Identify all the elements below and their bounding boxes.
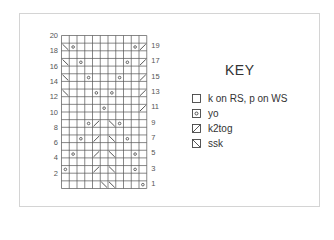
chart-grid [61,35,147,189]
row-number-right: 7 [151,134,165,142]
ssk-icon [101,182,107,188]
key-item-k2tog: k2tog [192,122,232,134]
row-number-right: 1 [151,180,165,188]
row-number-left: 4 [44,154,58,162]
yo-icon [72,153,75,156]
row-number-left: 12 [44,93,58,101]
row-number-right: 19 [151,42,165,50]
row-number-left: 20 [44,32,58,40]
yo-icon [134,46,137,49]
yo-icon [87,122,90,125]
yo-icon [192,109,201,118]
ssk-icon [63,90,69,96]
k2tog-icon [94,121,100,127]
yo-icon [118,76,121,79]
ssk-icon [109,136,115,142]
key-item-ssk: ssk [192,137,223,149]
row-number-right: 13 [151,88,165,96]
key-title: KEY [225,62,255,78]
yo-icon [95,92,98,95]
row-number-left: 8 [44,124,58,132]
key-label: k2tog [208,123,232,134]
key-label: yo [208,108,219,119]
ssk-icon [63,44,69,50]
yo-icon [134,168,137,171]
k2tog-icon [192,124,201,133]
k2tog-icon [140,59,146,65]
yo-icon [80,137,83,140]
ssk-icon [109,151,115,157]
row-number-left: 2 [44,170,58,178]
k2tog-icon [140,90,146,96]
ssk-icon [63,59,69,65]
key-label: ssk [208,138,223,149]
row-number-left: 6 [44,139,58,147]
ssk-icon [109,167,115,173]
row-number-left: 16 [44,63,58,71]
row-number-right: 3 [151,165,165,173]
yo-icon [80,61,83,64]
key-label: k on RS, p on WS [208,93,287,104]
row-number-right: 11 [151,103,165,111]
ssk-icon [63,75,69,81]
k2tog-icon [94,167,100,173]
yo-icon [126,137,129,140]
row-number-left: 14 [44,78,58,86]
yo-icon [72,46,75,49]
key-item-yo: yo [192,107,219,119]
ssk-icon [192,139,201,148]
k2tog-icon [140,44,146,50]
yo-icon [134,153,137,156]
row-number-left: 10 [44,109,58,117]
yo-icon [118,122,121,125]
ssk-icon [109,121,115,127]
row-number-left: 18 [44,47,58,55]
k2tog-icon [94,151,100,157]
knit-square-icon [192,94,201,103]
yo-icon [126,61,129,64]
ssk-icon [109,182,115,188]
yo-icon [87,76,90,79]
key-item-knit: k on RS, p on WS [192,92,287,104]
yo-icon [64,168,67,171]
row-number-right: 9 [151,119,165,127]
k2tog-icon [140,75,146,81]
yo-icon [103,107,106,110]
row-number-right: 15 [151,73,165,81]
yo-icon [111,92,114,95]
row-number-right: 5 [151,149,165,157]
row-number-right: 17 [151,57,165,65]
k2tog-icon [94,136,100,142]
k2tog-icon [140,105,146,111]
yo-icon [142,183,145,186]
